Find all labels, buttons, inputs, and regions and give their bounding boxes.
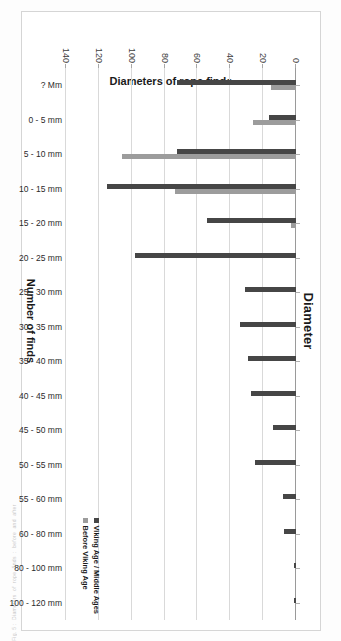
bar-viking-age[interactable] <box>254 459 295 464</box>
scanned-page: Fig. 5 : Diameters of rope finds : befor… <box>0 0 341 641</box>
x-axis-category-label: 55 - 60 mm <box>19 494 62 504</box>
x-axis-tick <box>296 257 300 258</box>
x-axis-category-label: 30 - 35 mm <box>19 321 62 331</box>
y-axis-tick-label: 0 <box>291 57 301 62</box>
bar-viking-age[interactable] <box>293 563 295 568</box>
x-axis-category-label: 25 - 30 mm <box>19 287 62 297</box>
bar-viking-age[interactable] <box>293 597 295 602</box>
x-axis-tick <box>296 361 300 362</box>
x-axis-tick <box>296 568 300 569</box>
legend-swatch-icon <box>94 517 99 522</box>
bar-before-viking-age[interactable] <box>291 223 296 228</box>
y-axis-tick-label: 40 <box>225 52 235 62</box>
category-group: 5 - 10 mm <box>66 137 296 172</box>
y-axis-tick-label: 20 <box>258 52 268 62</box>
legend-swatch-icon <box>83 517 88 522</box>
bar-viking-age[interactable] <box>251 390 296 395</box>
x-axis-tick <box>296 464 300 465</box>
y-axis-tick-label: 120 <box>93 47 103 62</box>
category-group: 35 - 40 mm <box>66 344 296 379</box>
x-axis-tick <box>296 292 300 293</box>
x-axis-category-label: 100 - 120 mm <box>9 597 61 607</box>
category-group: 45 - 50 mm <box>66 413 296 448</box>
x-axis-tick <box>296 499 300 500</box>
x-axis-category-label: 15 - 20 mm <box>19 218 62 228</box>
chart-title: Diameter <box>301 12 316 630</box>
x-axis-tick <box>296 223 300 224</box>
bar-viking-age[interactable] <box>239 321 295 326</box>
x-axis-category-label: 10 - 15 mm <box>19 183 62 193</box>
category-group: ? Mm <box>66 68 296 103</box>
x-axis-category-label: 0 - 5 mm <box>28 114 62 124</box>
x-axis-category-label: 20 - 25 mm <box>19 252 62 262</box>
bar-before-viking-age[interactable] <box>271 85 296 90</box>
category-group: 30 - 35 mm <box>66 309 296 344</box>
category-group: 20 - 25 mm <box>66 240 296 275</box>
bar-before-viking-age[interactable] <box>252 119 295 124</box>
bar-viking-age[interactable] <box>244 287 295 292</box>
y-axis-tick-label: 60 <box>192 52 202 62</box>
category-group: 10 - 15 mm <box>66 171 296 206</box>
x-axis-category-label: 60 - 80 mm <box>19 528 62 538</box>
bar-viking-age[interactable] <box>247 356 295 361</box>
y-axis-tick-label: 80 <box>159 52 169 62</box>
y-axis-tick <box>229 64 230 68</box>
y-axis-tick <box>65 64 66 68</box>
bar-viking-age[interactable] <box>206 218 295 223</box>
x-axis-tick <box>296 154 300 155</box>
x-axis-category-label: ? Mm <box>40 80 61 90</box>
category-group: 15 - 20 mm <box>66 206 296 241</box>
x-axis-tick <box>296 188 300 189</box>
y-axis-tick <box>262 64 263 68</box>
bar-viking-age[interactable] <box>107 183 296 188</box>
category-group: 0 - 5 mm <box>66 102 296 137</box>
rotated-chart-wrapper: Diameter Diameters of rope finds Number … <box>21 11 321 631</box>
x-axis-tick <box>296 326 300 327</box>
x-axis-tick <box>296 119 300 120</box>
bar-before-viking-age[interactable] <box>122 154 296 159</box>
y-axis-tick <box>130 64 131 68</box>
x-axis-tick <box>296 85 300 86</box>
y-axis-tick <box>97 64 98 68</box>
category-group: 55 - 60 mm <box>66 482 296 517</box>
x-axis-category-label: 40 - 45 mm <box>19 390 62 400</box>
legend-label: Before Viking Age <box>80 525 91 589</box>
bar-viking-age[interactable] <box>176 149 295 154</box>
x-axis-tick <box>296 395 300 396</box>
category-group: 25 - 30 mm <box>66 275 296 310</box>
x-axis-category-label: 35 - 40 mm <box>19 356 62 366</box>
y-axis-tick <box>196 64 197 68</box>
bar-before-viking-age[interactable] <box>175 188 296 193</box>
x-axis-category-label: 45 - 50 mm <box>19 425 62 435</box>
legend-item[interactable]: Before Viking Age <box>80 517 91 614</box>
x-axis-category-label: 5 - 10 mm <box>23 149 61 159</box>
page-margin-text: Fig. 5 : Diameters of rope finds : befor… <box>1 0 17 641</box>
x-axis-tick <box>296 430 300 431</box>
category-group: 40 - 45 mm <box>66 378 296 413</box>
x-axis-tick <box>296 602 300 603</box>
bar-viking-age[interactable] <box>282 494 295 499</box>
y-axis-tick <box>295 64 296 68</box>
bar-viking-age[interactable] <box>284 528 296 533</box>
legend-label: Viking Age / Middle Ages <box>91 525 102 614</box>
x-axis-category-label: 50 - 55 mm <box>19 459 62 469</box>
category-group: 50 - 55 mm <box>66 447 296 482</box>
bar-viking-age[interactable] <box>272 425 295 430</box>
bar-viking-age[interactable] <box>176 80 295 85</box>
legend-item[interactable]: Viking Age / Middle Ages <box>91 517 102 614</box>
bar-chart: Diameter Diameters of rope finds Number … <box>21 11 321 631</box>
bar-viking-age[interactable] <box>269 114 296 119</box>
y-axis-tick-label: 140 <box>61 47 71 62</box>
x-axis-category-label: 80 - 100 mm <box>14 563 62 573</box>
chart-legend: Viking Age / Middle AgesBefore Viking Ag… <box>80 517 102 614</box>
y-axis-tick-label: 100 <box>126 47 136 62</box>
bar-viking-age[interactable] <box>135 252 296 257</box>
y-axis-tick <box>163 64 164 68</box>
x-axis-tick <box>296 533 300 534</box>
